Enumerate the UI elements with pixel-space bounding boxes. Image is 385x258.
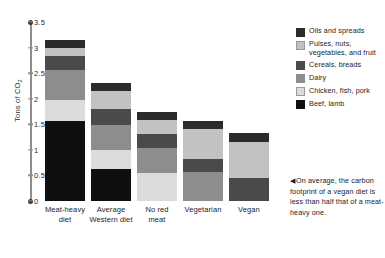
bar-meat-heavy-diet[interactable] [45,40,85,201]
bar-segment [183,172,223,201]
bar-segment [91,83,131,90]
bar-no-red-meat[interactable] [137,112,177,201]
bar-segment [137,148,177,173]
bar-segment [45,40,85,48]
legend-label: Oils and spreads [309,27,365,36]
bar-segment [229,133,269,142]
caption-arrow-icon: ◀ [290,177,295,184]
caption: ◀On average, the carbon footprint of a v… [290,176,385,218]
bar-segment [91,169,131,201]
bar-group: Meat-heavydietAverageWestern dietNo redm… [0,0,265,258]
bar-segment [91,150,131,168]
bar-average-western-diet[interactable] [91,83,131,201]
legend-swatch [296,41,305,50]
legend-item[interactable]: Dairy [296,74,385,84]
legend-label: Pulses, nuts, vegetables, and fruit [309,40,385,57]
legend-label: Beef, lamb [309,100,344,109]
bar-segment [45,121,85,201]
legend-label: Cereals, breads [309,61,361,70]
legend-item[interactable]: Oils and spreads [296,27,385,37]
bar-segment [45,70,85,100]
bar-segment [91,109,131,124]
caption-text: On average, the carbon footprint of a ve… [290,176,384,217]
bar-segment [229,142,269,178]
bar-segment [45,100,85,121]
legend-swatch [296,61,305,70]
bar-segment [137,112,177,121]
legend-swatch [296,87,305,96]
bar-segment [91,91,131,110]
bar-segment [183,121,223,130]
legend-swatch [296,74,305,83]
legend-label: Chicken, fish, pork [309,87,370,96]
legend-item[interactable]: Cereals, breads [296,61,385,71]
bar-segment [45,56,85,70]
bar-segment [137,120,177,134]
legend-swatch [296,28,305,37]
chart-figure: Tons of CO2 00.511.522.533.5 Meat-heavyd… [0,0,385,258]
legend-label: Dairy [309,74,326,83]
bar-segment [229,178,269,201]
bar-segment [137,134,177,148]
bar-segment [183,159,223,172]
bar-segment [183,129,223,159]
bar-segment [45,48,85,56]
plot-area: Tons of CO2 00.511.522.533.5 Meat-heavyd… [0,0,265,258]
legend: Oils and spreadsPulses, nuts, vegetables… [296,27,385,113]
legend-item[interactable]: Chicken, fish, pork [296,87,385,97]
x-axis-label: Vegan [217,205,281,215]
x-axis-label-line: Vegan [217,205,281,215]
bar-segment [137,173,177,201]
bar-vegetarian[interactable] [183,121,223,201]
legend-swatch [296,100,305,109]
legend-item[interactable]: Beef, lamb [296,100,385,110]
legend-item[interactable]: Pulses, nuts, vegetables, and fruit [296,40,385,57]
bar-segment [91,125,131,151]
x-axis-label-line: meat [125,215,189,225]
bar-vegan[interactable] [229,133,269,201]
